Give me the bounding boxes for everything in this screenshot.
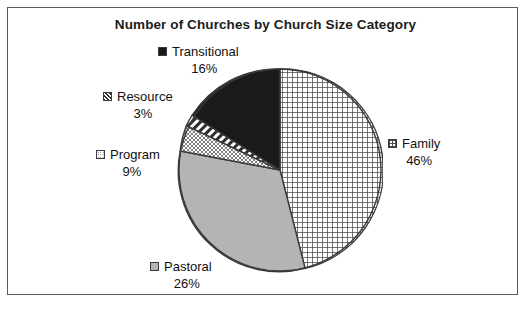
slice-label-resource-percent: 3% [103, 106, 173, 122]
slice-label-family: Family 46% [388, 136, 440, 169]
slice-label-pastoral: Pastoral 26% [150, 259, 212, 292]
swatch-pastoral-icon [150, 262, 159, 271]
slice-label-family-percent: 46% [388, 153, 440, 169]
slice-label-family-name: Family [402, 136, 440, 152]
slice-label-transitional-name: Transitional [172, 44, 239, 60]
pie-svg [177, 67, 383, 273]
slice-label-pastoral-name: Pastoral [164, 259, 212, 275]
pie-chart-figure: Number of Churches by Church Size Catego… [0, 0, 531, 310]
slice-label-program: Program 9% [96, 147, 160, 180]
swatch-family-icon [388, 139, 397, 148]
pie-plot-area [177, 67, 383, 273]
chart-title: Number of Churches by Church Size Catego… [0, 17, 531, 32]
swatch-resource-icon [103, 92, 112, 101]
slice-label-transitional-percent: 16% [158, 61, 239, 77]
slice-label-transitional: Transitional 16% [158, 44, 239, 77]
slice-label-program-percent: 9% [96, 164, 160, 180]
slice-label-pastoral-percent: 26% [150, 276, 212, 292]
slice-label-program-name: Program [110, 147, 160, 163]
slice-label-resource: Resource 3% [103, 89, 173, 122]
swatch-transitional-icon [158, 47, 167, 56]
slice-label-resource-name: Resource [117, 89, 173, 105]
swatch-program-icon [96, 150, 105, 159]
